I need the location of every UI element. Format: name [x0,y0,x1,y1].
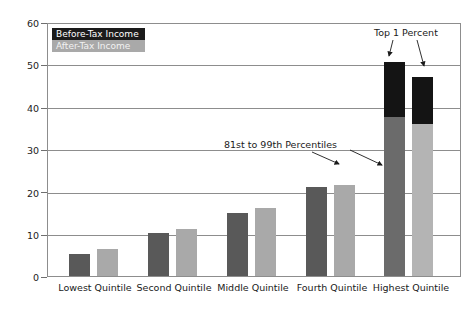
bar-segment-after-tax [255,208,276,276]
bar-fourth-quintile-after-tax [334,185,355,276]
bar-segment-after-tax [176,229,197,276]
bar-highest-quintile-after-tax [412,77,433,276]
bar-segment-before-tax [306,187,327,276]
bar-highest-quintile-before-tax [384,62,405,276]
bar-middle-quintile-before-tax [227,213,248,276]
bar-middle-quintile-after-tax [255,208,276,276]
bar-segment-top-1-percent [384,62,405,117]
y-axis-tick-label-40: 40 [15,104,39,114]
bar-segment-81st-to-99th-percentiles [384,117,405,276]
y-axis-tick-label-30: 30 [15,146,39,156]
income-share-bar-chart: 60 50 40 30 20 10 0 [0,0,473,313]
bar-segment-81st-to-99th-percentiles [412,124,433,276]
y-axis-tick-label-20: 20 [15,189,39,199]
y-axis-tick-mark-0 [41,277,47,278]
annotation-top-1-percent: Top 1 Percent [374,28,438,38]
bar-segment-before-tax [148,233,169,276]
bar-segment-after-tax [97,249,118,276]
bar-segment-before-tax [227,213,248,276]
bar-second-quintile-after-tax [176,229,197,276]
bar-segment-before-tax [69,254,90,276]
y-axis-tick-label-0: 0 [15,273,39,283]
bar-segment-top-1-percent [412,77,433,124]
bar-lowest-quintile-before-tax [69,254,90,276]
y-axis-tick-label-50: 50 [15,61,39,71]
bar-lowest-quintile-after-tax [97,249,118,276]
bar-second-quintile-before-tax [148,233,169,276]
y-axis-tick-label-60: 60 [15,19,39,29]
legend-item-before-tax-income: Before-Tax Income [52,28,145,40]
legend-item-after-tax-income: After-Tax Income [52,40,145,52]
chart-legend: Before-Tax Income After-Tax Income [52,28,145,52]
y-axis-tick-label-10: 10 [15,231,39,241]
bar-segment-after-tax [334,185,355,276]
x-axis-label-highest-quintile: Highest Quintile [363,283,459,293]
bar-fourth-quintile-before-tax [306,187,327,276]
annotation-81st-to-99th-percentiles: 81st to 99th Percentiles [224,140,337,150]
plot-area [47,23,461,277]
